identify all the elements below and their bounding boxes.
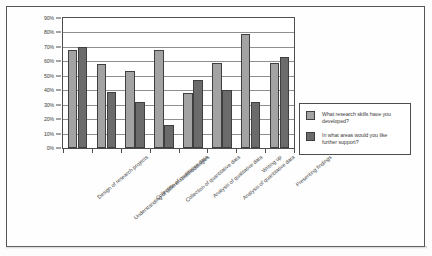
- chart-legend: What research skills have you developed?…: [299, 103, 411, 155]
- y-axis-tick-mark: [56, 119, 61, 120]
- y-axis-tick-mark: [56, 75, 61, 76]
- y-axis-tick-label: 60%: [44, 58, 54, 64]
- x-axis-category-label: Design of research projects: [96, 154, 149, 200]
- legend-label: What research skills have you developed?: [322, 111, 402, 125]
- y-axis-tick-label: 50%: [44, 73, 54, 79]
- y-axis-tick-label: 90%: [44, 15, 54, 21]
- x-axis-labels: Design of research projectsUnderstanding…: [16, 152, 316, 237]
- scan-shadow: [6, 246, 427, 249]
- bar-group: [150, 18, 179, 148]
- bar: [212, 63, 222, 148]
- bar: [222, 90, 232, 148]
- bar: [97, 64, 107, 148]
- y-axis-tick-label: 20%: [44, 116, 54, 122]
- legend-swatch: [306, 132, 315, 141]
- bar-group: [63, 18, 92, 148]
- y-axis-tick-mark: [56, 61, 61, 62]
- y-axis-tick-label: 70%: [44, 44, 54, 50]
- bar-chart: 90%80%70%60%50%40%30%20%10%0% Design of …: [16, 12, 411, 237]
- x-axis-category-label: Presenting findings: [294, 154, 332, 187]
- bar-group: [236, 18, 265, 148]
- y-axis-tick-mark: [56, 18, 61, 19]
- bar-group: [92, 18, 121, 148]
- y-axis-tick-mark: [56, 133, 61, 134]
- bar: [241, 34, 251, 148]
- bar-group: [265, 18, 294, 148]
- bar: [183, 93, 193, 148]
- y-axis-tick-mark: [56, 90, 61, 91]
- y-axis-tick-label: 10%: [44, 131, 54, 137]
- bar-group: [179, 18, 208, 148]
- legend-item[interactable]: What research skills have you developed?: [306, 111, 402, 125]
- y-axis-tick-label: 40%: [44, 87, 54, 93]
- y-axis-tick-label: 80%: [44, 29, 54, 35]
- bar: [280, 57, 290, 148]
- legend-swatch: [306, 111, 315, 120]
- bar: [270, 63, 280, 148]
- scanned-page: 90%80%70%60%50%40%30%20%10%0% Design of …: [0, 0, 432, 256]
- bar-group: [121, 18, 150, 148]
- bar: [154, 50, 164, 148]
- y-axis-tick-label: 30%: [44, 102, 54, 108]
- bar: [193, 80, 203, 148]
- bar: [107, 92, 117, 148]
- bar: [78, 47, 88, 148]
- bar: [135, 102, 145, 148]
- y-axis-tick-mark: [56, 104, 61, 105]
- bar-group: [207, 18, 236, 148]
- y-axis: 90%80%70%60%50%40%30%20%10%0%: [16, 12, 62, 154]
- y-axis-tick-mark: [56, 32, 61, 33]
- bar: [68, 50, 78, 148]
- y-axis-tick-mark: [56, 148, 61, 149]
- x-axis-category-label: Collection of qualitative data: [155, 154, 209, 201]
- bar-groups: [63, 18, 294, 148]
- legend-label: In what areas would you like further sup…: [322, 132, 402, 146]
- bar: [125, 71, 135, 148]
- bar: [251, 102, 261, 148]
- bar: [164, 125, 174, 148]
- y-axis-tick-mark: [56, 46, 61, 47]
- legend-item[interactable]: In what areas would you like further sup…: [306, 132, 402, 146]
- y-axis-tick-label: 0%: [47, 145, 54, 151]
